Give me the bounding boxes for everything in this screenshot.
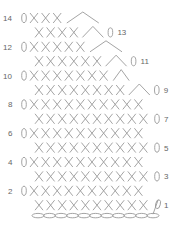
chain-icon — [22, 13, 27, 22]
single-crochet-icon — [134, 128, 142, 138]
single-crochet-icon — [70, 114, 78, 124]
single-crochet-icon — [42, 42, 50, 52]
single-crochet-icon — [42, 186, 50, 196]
single-crochet-icon — [70, 85, 78, 95]
row-number-label: 6 — [8, 129, 13, 138]
single-crochet-icon — [128, 171, 136, 181]
chain-icon — [155, 143, 160, 152]
single-crochet-icon — [53, 99, 61, 109]
single-crochet-icon — [128, 114, 136, 124]
single-crochet-icon — [128, 200, 136, 210]
single-crochet-icon — [47, 171, 55, 181]
single-crochet-icon — [123, 186, 131, 196]
chain-icon — [22, 42, 27, 51]
single-crochet-icon — [88, 99, 96, 109]
single-crochet-icon — [35, 171, 43, 181]
decrease-icon — [90, 41, 122, 52]
single-crochet-icon — [53, 128, 61, 138]
foundation-chain-icon — [67, 213, 79, 217]
single-crochet-icon — [111, 186, 119, 196]
single-crochet-icon — [116, 85, 124, 95]
single-crochet-icon — [93, 114, 101, 124]
row-number-label: 5 — [164, 144, 169, 153]
single-crochet-icon — [47, 56, 55, 66]
row-number-label: 12 — [3, 43, 12, 52]
decrease-icon — [82, 26, 103, 37]
single-crochet-icon — [42, 157, 50, 167]
single-crochet-icon — [58, 171, 66, 181]
single-crochet-icon — [35, 143, 43, 153]
foundation-chain-icon — [113, 213, 125, 217]
single-crochet-icon — [105, 114, 113, 124]
chain-icon — [108, 28, 113, 37]
row-number-label: 11 — [141, 57, 150, 66]
single-crochet-icon — [123, 157, 131, 167]
single-crochet-icon — [76, 42, 84, 52]
single-crochet-icon — [30, 186, 38, 196]
single-crochet-icon — [70, 56, 78, 66]
single-crochet-icon — [47, 143, 55, 153]
single-crochet-icon — [42, 71, 50, 81]
chain-icon — [155, 114, 160, 123]
single-crochet-icon — [139, 171, 147, 181]
chain-icon — [22, 100, 27, 109]
single-crochet-icon — [134, 186, 142, 196]
single-crochet-icon — [42, 128, 50, 138]
single-crochet-icon — [53, 71, 61, 81]
single-crochet-icon — [42, 99, 50, 109]
single-crochet-icon — [70, 200, 78, 210]
single-crochet-icon — [35, 27, 43, 37]
foundation-chain-icon — [101, 213, 113, 217]
single-crochet-icon — [47, 85, 55, 95]
decrease-icon — [113, 70, 129, 81]
single-crochet-icon — [58, 56, 66, 66]
row-number-label: 13 — [117, 28, 126, 37]
single-crochet-icon — [81, 114, 89, 124]
single-crochet-icon — [58, 27, 66, 37]
single-crochet-icon — [35, 114, 43, 124]
single-crochet-icon — [58, 85, 66, 95]
single-crochet-icon — [81, 56, 89, 66]
single-crochet-icon — [30, 42, 38, 52]
single-crochet-icon — [53, 13, 61, 23]
single-crochet-icon — [105, 171, 113, 181]
single-crochet-icon — [81, 143, 89, 153]
foundation-chain-icon — [55, 213, 67, 217]
single-crochet-icon — [134, 99, 142, 109]
foundation-chain-icon — [136, 213, 148, 217]
single-crochet-icon — [88, 128, 96, 138]
single-crochet-icon — [105, 200, 113, 210]
single-crochet-icon — [65, 157, 73, 167]
chain-icon — [22, 71, 27, 80]
single-crochet-icon — [100, 99, 108, 109]
single-crochet-icon — [70, 143, 78, 153]
single-crochet-icon — [93, 85, 101, 95]
single-crochet-icon — [100, 71, 108, 81]
row-number-label: 1 — [164, 201, 169, 210]
single-crochet-icon — [128, 143, 136, 153]
single-crochet-icon — [100, 186, 108, 196]
foundation-chain-icon — [78, 213, 90, 217]
chain-icon — [131, 57, 136, 66]
crochet-chart: 1413121110987654321 — [0, 0, 179, 247]
single-crochet-icon — [116, 143, 124, 153]
single-crochet-icon — [65, 71, 73, 81]
single-crochet-icon — [47, 114, 55, 124]
single-crochet-icon — [35, 200, 43, 210]
single-crochet-icon — [116, 200, 124, 210]
single-crochet-icon — [81, 200, 89, 210]
single-crochet-icon — [111, 99, 119, 109]
chain-icon — [155, 85, 160, 94]
chain-icon — [155, 172, 160, 181]
single-crochet-icon — [47, 27, 55, 37]
single-crochet-icon — [65, 186, 73, 196]
foundation-chain-icon — [90, 213, 102, 217]
single-crochet-icon — [134, 157, 142, 167]
single-crochet-icon — [76, 99, 84, 109]
single-crochet-icon — [76, 71, 84, 81]
single-crochet-icon — [30, 13, 38, 23]
single-crochet-icon — [53, 186, 61, 196]
single-crochet-icon — [35, 56, 43, 66]
single-crochet-icon — [53, 157, 61, 167]
single-crochet-icon — [65, 42, 73, 52]
